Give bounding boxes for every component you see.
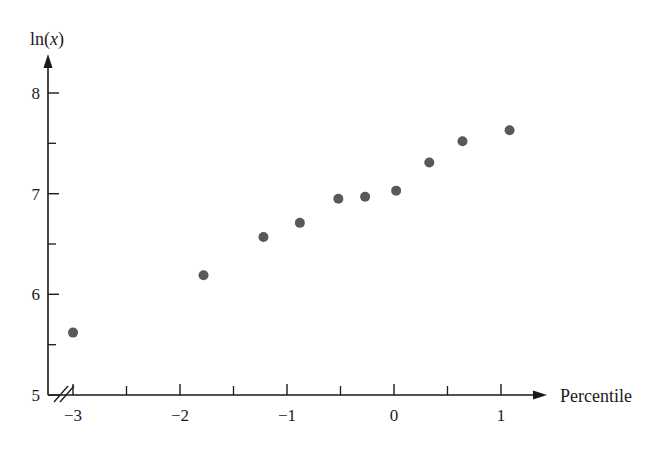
plot-canvas: 5 6 7 8 −3 −2 −1 0 1 ln(x) Percentile [0,0,651,455]
x-axis-title: Percentile [560,386,632,406]
data-point [391,186,401,196]
data-point [505,125,515,135]
x-axis-arrowhead [533,391,547,400]
y-tick-label-7: 7 [32,185,41,204]
y-axis-title-variable: x [49,29,58,49]
x-axis [48,391,547,400]
y-axis-title-suffix: ) [58,29,64,50]
data-point [360,192,370,202]
data-point [199,270,209,280]
data-point [333,194,343,204]
data-points-layer [68,125,515,337]
x-major-ticks [73,384,501,395]
y-axis-arrowhead [44,54,53,68]
y-axis-title-prefix: ln( [30,29,50,50]
x-tick-label-1: 1 [497,406,506,425]
data-point [68,328,78,338]
normal-probability-plot-figure: 5 6 7 8 −3 −2 −1 0 1 ln(x) Percentile [0,0,651,455]
data-point [295,218,305,228]
y-axis [44,54,53,395]
x-tick-label-neg1: −1 [278,406,296,425]
y-minor-ticks [48,143,56,344]
data-point [258,232,268,242]
x-axis-break-mark [54,386,74,402]
y-tick-label-6: 6 [32,285,41,304]
y-axis-title: ln(x) [30,29,64,50]
data-point [457,136,467,146]
x-tick-label-0: 0 [390,406,399,425]
y-tick-label-5: 5 [32,386,41,405]
x-tick-label-neg3: −3 [64,406,82,425]
y-tick-label-8: 8 [32,84,41,103]
x-tick-label-neg2: −2 [171,406,189,425]
data-point [424,157,434,167]
